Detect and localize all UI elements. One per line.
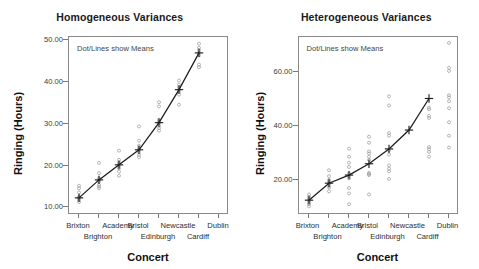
data-point	[138, 139, 141, 142]
data-point	[447, 41, 450, 44]
x-tick-mark	[138, 214, 139, 218]
x-tick-label-edinburgh: Edinburgh	[141, 232, 176, 241]
data-point	[447, 66, 450, 69]
x-tick-mark	[388, 214, 389, 218]
data-point	[447, 100, 450, 103]
x-tick-mark	[218, 214, 219, 218]
data-point	[427, 155, 430, 158]
plot-frame-homogeneous: Dot/Lines show Means	[68, 36, 228, 214]
data-point	[347, 192, 350, 195]
x-tick-mark	[408, 214, 409, 218]
data-point	[178, 103, 181, 106]
x-tick-mark	[428, 214, 429, 218]
data-point	[367, 150, 370, 153]
x-axis-label: Concert	[68, 251, 228, 263]
data-point	[387, 164, 390, 167]
y-tick-mark	[293, 179, 298, 180]
y-tick-label: 20.00	[32, 160, 63, 169]
data-point	[347, 165, 350, 168]
x-tick-label-newcastle: Newcastle	[390, 221, 425, 230]
x-tick-label-bristol: Bristol	[127, 221, 148, 230]
x-tick-mark	[448, 214, 449, 218]
y-tick-mark	[63, 123, 68, 124]
y-tick-label: 50.00	[32, 35, 63, 44]
x-tick-mark	[78, 214, 79, 218]
x-tick-mark	[308, 214, 309, 218]
data-point	[447, 69, 450, 72]
panel-homogeneous: Homogeneous Variances Ringing (Hours) Do…	[0, 0, 240, 269]
y-tick-mark	[63, 206, 68, 207]
y-tick-label: 30.00	[32, 118, 63, 127]
data-point	[347, 187, 350, 190]
y-axis-label: Ringing (Hours)	[254, 92, 266, 175]
panel-heterogeneous: Heterogeneous Variances Ringing (Hours) …	[240, 0, 479, 269]
data-point	[118, 170, 121, 173]
data-point	[307, 193, 310, 196]
x-tick-label-dublin: Dublin	[437, 221, 459, 230]
data-point	[387, 177, 390, 180]
data-point	[387, 104, 390, 107]
x-tick-label-dublin: Dublin	[207, 221, 229, 230]
y-tick-label: 20.00	[262, 174, 293, 183]
x-axis-label: Concert	[298, 251, 458, 263]
mean-line	[79, 53, 199, 198]
data-point	[447, 94, 450, 97]
data-point	[198, 42, 201, 45]
y-tick-label: 40.00	[262, 121, 293, 130]
data-point	[158, 105, 161, 108]
x-tick-mark	[178, 214, 179, 218]
data-point	[327, 169, 330, 172]
data-point	[387, 153, 390, 156]
y-tick-label: 40.00	[32, 77, 63, 86]
data-point	[427, 146, 430, 149]
data-point	[367, 135, 370, 138]
plot-canvas-heterogeneous	[299, 37, 459, 215]
data-point	[138, 125, 141, 128]
x-tick-label-cardiff: Cardiff	[187, 232, 209, 241]
y-tick-mark	[293, 71, 298, 72]
y-axis-label: Ringing (Hours)	[12, 92, 24, 175]
data-point	[98, 172, 101, 175]
chart-title: Heterogeneous Variances	[240, 11, 479, 23]
plot-frame-heterogeneous: Dot/Lines show Means	[298, 36, 458, 214]
chart-panels: Homogeneous Variances Ringing (Hours) Do…	[0, 0, 479, 269]
plot-canvas-homogeneous	[69, 37, 229, 215]
data-point	[98, 161, 101, 164]
data-point	[447, 146, 450, 149]
data-point	[347, 203, 350, 206]
data-point	[327, 190, 330, 193]
data-point	[367, 141, 370, 144]
data-point	[367, 155, 370, 158]
chart-title: Homogeneous Variances	[0, 11, 240, 23]
data-point	[447, 134, 450, 137]
x-tick-label-bristol: Bristol	[357, 221, 378, 230]
data-point	[447, 121, 450, 124]
x-tick-mark	[98, 214, 99, 218]
data-point	[118, 149, 121, 152]
x-tick-mark	[348, 214, 349, 218]
x-tick-mark	[118, 214, 119, 218]
chart-page: { "page": { "axis_label_x": "Concert", "…	[0, 0, 479, 269]
x-tick-label-brixton: Brixton	[296, 221, 320, 230]
data-point	[78, 191, 81, 194]
y-tick-mark	[63, 81, 68, 82]
y-tick-mark	[63, 165, 68, 166]
x-tick-label-cardiff: Cardiff	[416, 232, 438, 241]
data-point	[387, 95, 390, 98]
x-tick-mark	[158, 214, 159, 218]
y-tick-mark	[293, 125, 298, 126]
x-tick-label-brixton: Brixton	[66, 221, 90, 230]
data-point	[427, 114, 430, 117]
data-point	[347, 147, 350, 150]
data-point	[118, 174, 121, 177]
data-point	[447, 107, 450, 110]
y-tick-mark	[63, 39, 68, 40]
data-point	[367, 193, 370, 196]
y-tick-label: 60.00	[262, 67, 293, 76]
x-tick-label-brighton: Brighton	[313, 232, 341, 241]
x-tick-mark	[368, 214, 369, 218]
x-tick-label-brighton: Brighton	[84, 232, 112, 241]
data-point	[158, 101, 161, 104]
x-tick-mark	[328, 214, 329, 218]
mean-line	[309, 98, 429, 200]
